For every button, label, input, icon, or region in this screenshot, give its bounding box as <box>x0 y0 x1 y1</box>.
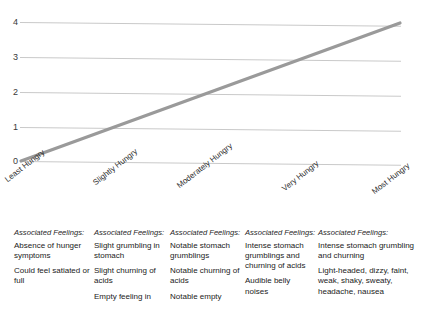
feelings-heading: Associated Feelings: <box>170 228 243 238</box>
feelings-item: Slight grumbling in stomach <box>94 241 168 261</box>
feelings-item: Intense stomach grumblings and churning … <box>245 241 315 272</box>
feelings-item: Notable empty <box>170 292 243 302</box>
feelings-item: Empty feeling in <box>94 292 168 302</box>
associated-feelings-section: Associated Feelings: Absence of hunger s… <box>0 228 422 309</box>
hunger-scale-chart: 4 3 2 1 0 Least Hungry Slightly Hungry M… <box>0 0 422 230</box>
feelings-item: Absence of hunger symptoms <box>14 241 92 261</box>
feelings-item: Notable churning of acids <box>170 266 243 286</box>
feelings-column-most-hungry: Associated Feelings: Intense stomach gru… <box>318 228 420 302</box>
feelings-column-moderately-hungry: Associated Feelings: Notable stomach gru… <box>170 228 243 307</box>
feelings-heading: Associated Feelings: <box>245 228 315 238</box>
feelings-column-very-hungry: Associated Feelings: Intense stomach gru… <box>245 228 315 302</box>
feelings-heading: Associated Feelings: <box>14 228 92 238</box>
scanned-page: 4 3 2 1 0 Least Hungry Slightly Hungry M… <box>0 0 422 309</box>
feelings-column-slightly-hungry: Associated Feelings: Slight grumbling in… <box>94 228 168 307</box>
feelings-item: Light-headed, dizzy, faint, weak, shaky,… <box>318 266 420 297</box>
hunger-trend-line <box>0 0 422 230</box>
feelings-item: Notable stomach grumblings <box>170 241 243 261</box>
feelings-item: Audible belly noises <box>245 276 315 296</box>
feelings-column-least-hungry: Associated Feelings: Absence of hunger s… <box>14 228 92 292</box>
feelings-item: Intense stomach grumbling and churning <box>318 241 420 261</box>
feelings-item: Could feel satiated or full <box>14 266 92 286</box>
feelings-item: Slight churning of acids <box>94 266 168 286</box>
feelings-heading: Associated Feelings: <box>94 228 168 238</box>
feelings-heading: Associated Feelings: <box>318 228 420 238</box>
